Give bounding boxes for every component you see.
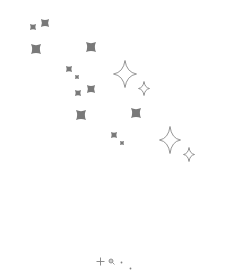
filled-sparkle-icon (29, 23, 37, 31)
filled-sparkle-icon (75, 109, 87, 121)
filled-sparkle-icon (74, 89, 82, 97)
filled-sparkle-icon (30, 43, 42, 55)
filled-sparkle-icon (40, 18, 50, 28)
filled-sparkle-icon (86, 84, 96, 94)
outline-star-icon (183, 147, 195, 162)
outline-star-icon (159, 126, 181, 154)
dot-icon[interactable] (129, 255, 132, 274)
outline-star-icon (113, 60, 137, 88)
bottom-toolbar (0, 244, 237, 258)
filled-sparkle-icon (130, 107, 142, 119)
filled-sparkle-icon (119, 140, 125, 146)
canvas-label: sparkle pattern (0, 0, 1, 1)
zoom-icon[interactable] (108, 250, 115, 269)
dot-icon[interactable] (120, 249, 123, 268)
filled-sparkle-icon (65, 65, 73, 73)
filled-sparkle-icon (85, 41, 97, 53)
plus-icon[interactable] (96, 251, 105, 270)
outline-star-icon (138, 81, 150, 96)
filled-sparkle-icon (74, 74, 80, 80)
filled-sparkle-icon (110, 131, 118, 139)
